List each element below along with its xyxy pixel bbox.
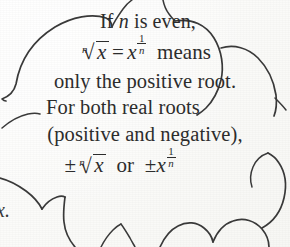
radical-expression-1: n√x <box>79 41 109 63</box>
cloud-hook-left <box>42 196 65 209</box>
cloud-cusp-bottom-left <box>101 224 121 247</box>
scanned-page: If n is even, n√x=x1n means only the pos… <box>0 0 290 247</box>
line-1-word-if: If <box>100 10 114 32</box>
power-base-x-2: x <box>156 154 165 178</box>
exponent-denominator: n <box>137 44 146 55</box>
radicand-x: x <box>96 41 109 63</box>
cloud-arc-bottom-left-inner <box>64 197 75 247</box>
callout-line-1: If n is even, <box>0 11 290 31</box>
exponent-numerator: 1 <box>137 33 146 45</box>
exponent-fraction-one-over-n-2: 1n <box>167 146 176 169</box>
plus-minus-sign-1: ± <box>64 154 76 178</box>
cropped-neighbour-text: x. <box>0 199 10 222</box>
radical-sign-icon: √ <box>83 40 95 64</box>
cloud-arc-bottom-right <box>213 219 269 247</box>
conjunction-or: or <box>116 154 134 178</box>
radical-sign-icon-2: √ <box>80 154 92 178</box>
line-1-variable-n: n <box>119 10 129 32</box>
exponent-denominator-2: n <box>167 158 176 169</box>
line-1-word-is-even: is even, <box>134 10 196 32</box>
callout-line-5: (positive and negative), <box>0 124 290 145</box>
callout-text-block: If n is even, n√x=x1n means only the pos… <box>0 11 290 177</box>
radicand-x-2: x <box>93 154 106 176</box>
cloud-cusp-bottom-left-right <box>121 224 135 247</box>
equals-sign: = <box>109 40 128 64</box>
callout-line-6-equation: ±n√x or ±x1n <box>0 151 290 177</box>
cloud-arc-bottom-center <box>160 223 213 247</box>
callout-line-3: only the positive root. <box>0 71 290 92</box>
plus-minus-sign-2: ± <box>145 154 157 178</box>
exponent-numerator-2: 1 <box>167 146 176 158</box>
power-base-x: x <box>127 40 136 64</box>
exponent-fraction-one-over-n: 1n <box>137 33 146 56</box>
radical-expression-2: n√x <box>76 155 106 177</box>
line-2-word-means: means <box>157 40 211 64</box>
callout-line-2-equation: n√x=x1n means <box>0 38 290 64</box>
callout-line-4: For both real roots <box>0 97 290 118</box>
